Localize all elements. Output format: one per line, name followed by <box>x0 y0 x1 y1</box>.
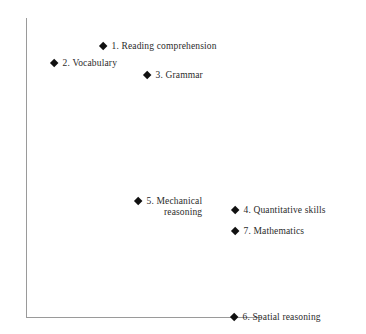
scatter-plot: 1.Reading comprehension2.Vocabulary3.Gra… <box>0 0 366 334</box>
data-point-text: Quantitative skills <box>253 205 325 215</box>
data-point-label: 6.Spatial reasoning <box>243 312 321 323</box>
data-point-number: 2. <box>63 58 70 68</box>
data-point[interactable]: 2.Vocabulary <box>50 58 118 69</box>
data-point-number: 5. <box>147 196 154 206</box>
diamond-marker-icon <box>231 227 240 236</box>
data-point-label: 2.Vocabulary <box>63 58 118 69</box>
data-point-text: Grammar <box>165 70 202 80</box>
diamond-marker-icon <box>99 42 108 51</box>
data-point-text-line2: reasoning <box>147 207 203 218</box>
data-point-text: Spatial reasoning <box>252 312 320 322</box>
data-point-number: 7. <box>244 226 251 236</box>
x-axis-line <box>26 317 262 318</box>
data-point-label: 3.Grammar <box>156 70 203 81</box>
data-point-text: Vocabulary <box>72 58 117 68</box>
diamond-marker-icon <box>230 313 239 322</box>
data-point[interactable]: 6.Spatial reasoning <box>230 312 321 323</box>
diamond-marker-icon <box>134 197 143 206</box>
data-point[interactable]: 7.Mathematics <box>231 226 305 237</box>
diamond-marker-icon <box>143 71 152 80</box>
data-point-label: 4.Quantitative skills <box>244 205 326 216</box>
data-point-label: 5.Mechanicalreasoning <box>147 196 203 218</box>
diamond-marker-icon <box>50 59 59 68</box>
data-point-number: 4. <box>244 205 251 215</box>
data-point-number: 1. <box>112 41 119 51</box>
data-point[interactable]: 5.Mechanicalreasoning <box>134 196 203 218</box>
y-axis-line <box>26 18 27 318</box>
data-point-text: Reading comprehension <box>121 41 216 51</box>
data-point-label: 7.Mathematics <box>244 226 305 237</box>
diamond-marker-icon <box>231 206 240 215</box>
data-point-text: Mathematics <box>253 226 304 236</box>
data-point[interactable]: 4.Quantitative skills <box>231 205 326 216</box>
data-point-text: Mechanical <box>156 196 202 206</box>
data-point-number: 6. <box>243 312 250 322</box>
data-point-label: 1.Reading comprehension <box>112 41 217 52</box>
data-point[interactable]: 1.Reading comprehension <box>99 41 217 52</box>
data-point[interactable]: 3.Grammar <box>143 70 203 81</box>
data-point-number: 3. <box>156 70 163 80</box>
